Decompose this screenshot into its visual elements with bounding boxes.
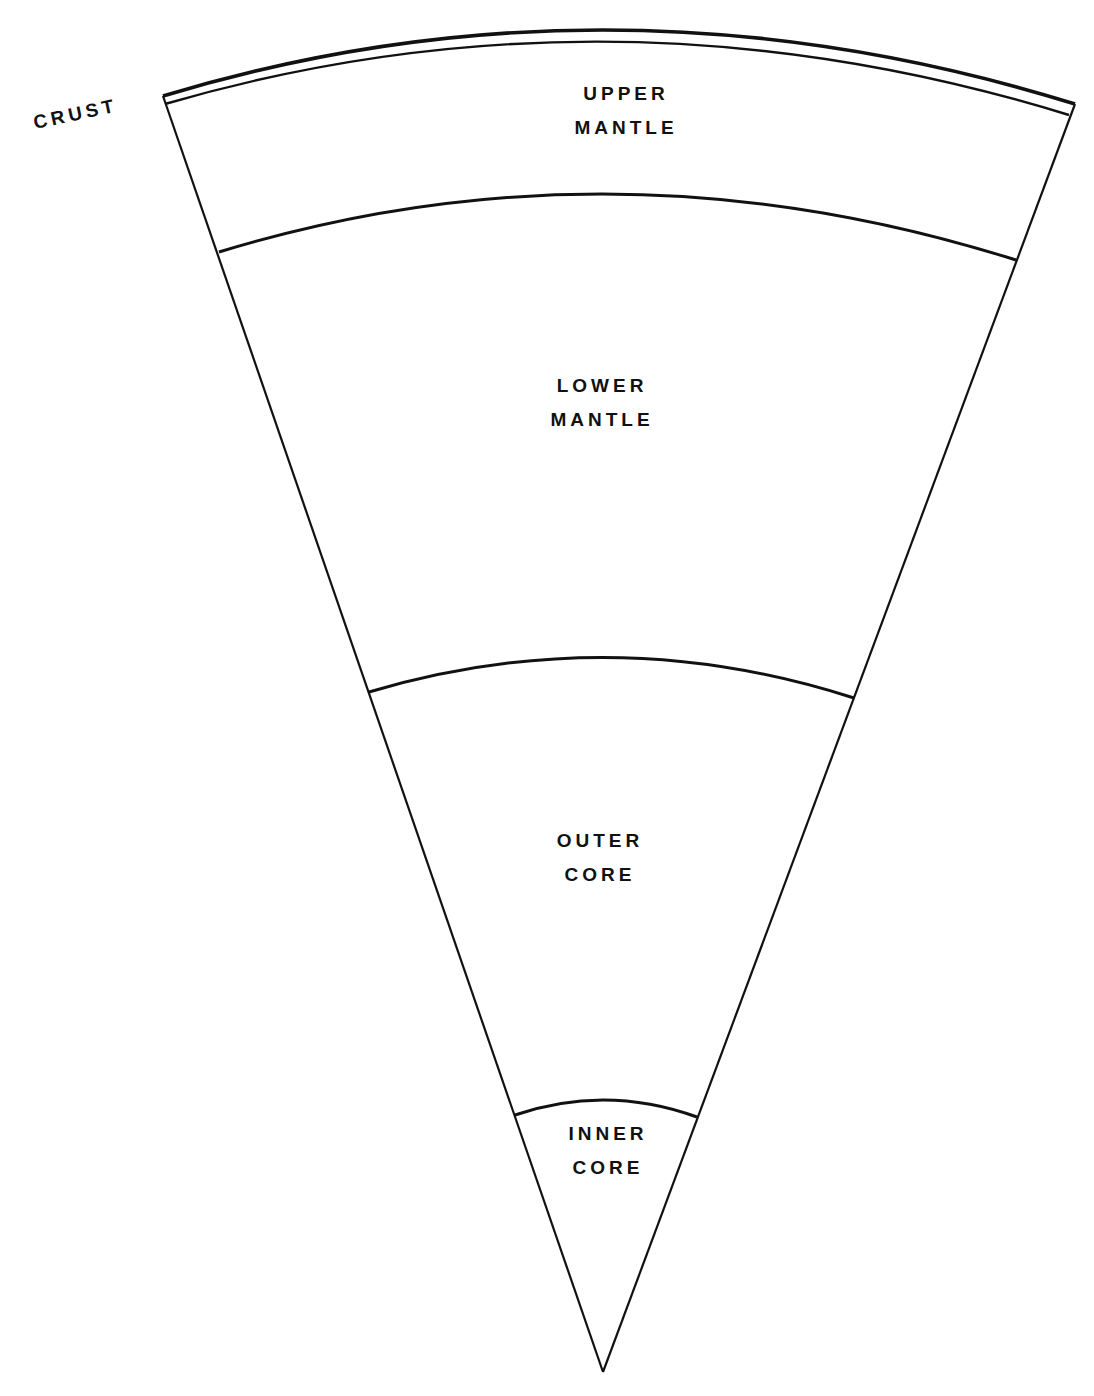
lower-mantle-label: LOWER MANTLE xyxy=(550,369,653,437)
outer-inner-core-boundary xyxy=(515,1100,697,1117)
lower-mantle-label-line2: MANTLE xyxy=(550,403,653,437)
outer-core-label-line1: OUTER xyxy=(557,824,644,858)
inner-core-label: INNER CORE xyxy=(568,1117,647,1185)
lower-mantle-label-line1: LOWER xyxy=(550,369,653,403)
upper-lower-mantle-boundary xyxy=(219,194,1016,260)
wedge-right-edge xyxy=(603,104,1075,1372)
upper-mantle-label-line2: MANTLE xyxy=(574,111,677,145)
mantle-core-boundary xyxy=(369,657,854,698)
inner-core-label-line2: CORE xyxy=(568,1151,647,1185)
upper-mantle-label: UPPER MANTLE xyxy=(574,77,677,145)
upper-mantle-label-line1: UPPER xyxy=(574,77,677,111)
outer-core-label: OUTER CORE xyxy=(557,824,644,892)
earth-layers-wedge-diagram xyxy=(0,0,1094,1396)
wedge-left-edge xyxy=(163,96,603,1372)
outer-core-label-line2: CORE xyxy=(557,858,644,892)
inner-core-label-line1: INNER xyxy=(568,1117,647,1151)
